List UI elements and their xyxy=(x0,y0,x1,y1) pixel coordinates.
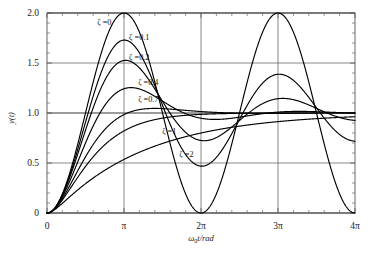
step-response-chart: 00.51.01.52.0 0π2π3π4π ζ =0ζ =0.1ζ =0.2ζ… xyxy=(0,0,376,263)
x-axis-title: ω0t/rad xyxy=(188,233,214,244)
chart-background xyxy=(0,0,376,263)
annotation-0-2: ζ =0.2 xyxy=(129,53,149,62)
y-tick-label: 0.5 xyxy=(27,158,39,168)
y-tick-label: 1.5 xyxy=(27,58,39,68)
annotation-0-1: ζ =0.1 xyxy=(129,33,149,42)
annotation-0: ζ =0 xyxy=(97,18,111,27)
y-axis-paren: (t) xyxy=(6,112,16,120)
x-tick-label: 0 xyxy=(45,221,50,231)
x-tick-label: 3π xyxy=(273,221,283,231)
chart-figure: 00.51.01.52.0 0π2π3π4π ζ =0ζ =0.1ζ =0.2ζ… xyxy=(0,0,376,263)
y-tick-label: 2.0 xyxy=(27,8,39,18)
svg-text:y(t): y(t) xyxy=(6,112,16,125)
y-tick-label: 1.0 xyxy=(27,108,39,118)
x-axis-rest: t/rad xyxy=(197,233,214,243)
y-axis-title: y(t) xyxy=(6,112,16,125)
x-tick-label: π xyxy=(122,221,127,231)
y-tick-label: 0 xyxy=(34,208,39,218)
x-tick-label: 4π xyxy=(350,221,360,231)
annotation-0-4: ζ =0.4 xyxy=(138,78,158,87)
x-tick-label: 2π xyxy=(196,221,206,231)
annotation-1: ζ =1 xyxy=(162,127,176,136)
annotation-2: ζ =2 xyxy=(179,150,193,159)
svg-text:ω0t/rad: ω0t/rad xyxy=(188,233,214,244)
annotation-0-7: ζ =0.7 xyxy=(138,95,158,104)
